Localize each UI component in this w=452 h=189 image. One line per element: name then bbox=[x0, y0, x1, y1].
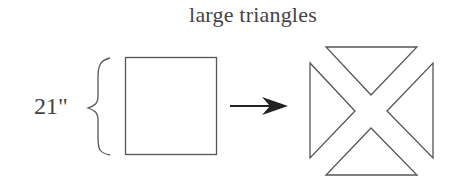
triangle-right bbox=[387, 63, 433, 158]
curly-brace-icon bbox=[88, 58, 110, 155]
triangle-left bbox=[310, 63, 355, 158]
triangle-top bbox=[326, 47, 417, 95]
arrow-right-icon bbox=[230, 97, 288, 115]
square-block bbox=[126, 58, 217, 155]
diagram-canvas bbox=[0, 0, 452, 189]
triangle-bottom bbox=[326, 128, 417, 175]
